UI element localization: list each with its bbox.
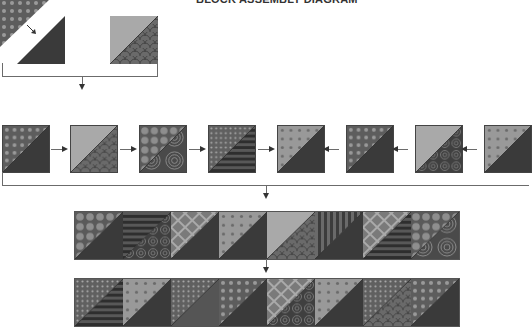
hst-block-example: [110, 16, 158, 64]
arrow-left-icon: [392, 146, 398, 152]
join-arrow-icon: [26, 24, 38, 36]
bracket-left: [2, 63, 3, 76]
bracket-right: [157, 63, 158, 76]
arrow-right-icon: [131, 146, 137, 152]
hst-bottom-triangle: [17, 16, 65, 64]
row3-block-2: [123, 279, 171, 326]
row1-block-7: [415, 125, 463, 173]
arrow-down-icon: [263, 193, 269, 199]
arrow-right-icon: [200, 146, 206, 152]
row2-block-6: [315, 212, 363, 259]
row2-block-7: [363, 212, 411, 259]
arrow-down-icon: [79, 84, 85, 90]
row2-block-8: [411, 212, 459, 259]
row1-block-4: [208, 125, 256, 173]
row1-block-1: [2, 125, 50, 173]
row3-block-5: [267, 279, 315, 326]
row3-block-1: [75, 279, 123, 326]
diagram-title: BLOCK ASSEMBLY DIAGRAM: [196, 0, 358, 5]
arrow-right-icon: [62, 146, 68, 152]
row2-block-3: [171, 212, 219, 259]
row3-block-7: [363, 279, 411, 326]
row3-block-6: [315, 279, 363, 326]
row1-block-8: [484, 125, 532, 173]
row1-block-2: [70, 125, 118, 173]
row3-block-8: [411, 279, 459, 326]
row2-block-5: [267, 212, 315, 259]
row1-block-5: [277, 125, 325, 173]
assembled-row-2: [74, 211, 460, 260]
row1-block-3: [139, 125, 187, 173]
row3-block-3: [171, 279, 219, 326]
arrow-right-icon: [269, 146, 275, 152]
bracket-bottom: [2, 76, 158, 77]
arrow-left-icon: [461, 146, 467, 152]
row3-block-4: [219, 279, 267, 326]
row1-block-6: [346, 125, 394, 173]
row1-bracket-left: [2, 172, 3, 185]
arrow-left-icon: [323, 146, 329, 152]
row2-block-2: [123, 212, 171, 259]
arrow-down-icon: [263, 267, 269, 273]
row2-block-1: [75, 212, 123, 259]
assembled-row-3: [74, 278, 460, 327]
row2-block-4: [219, 212, 267, 259]
